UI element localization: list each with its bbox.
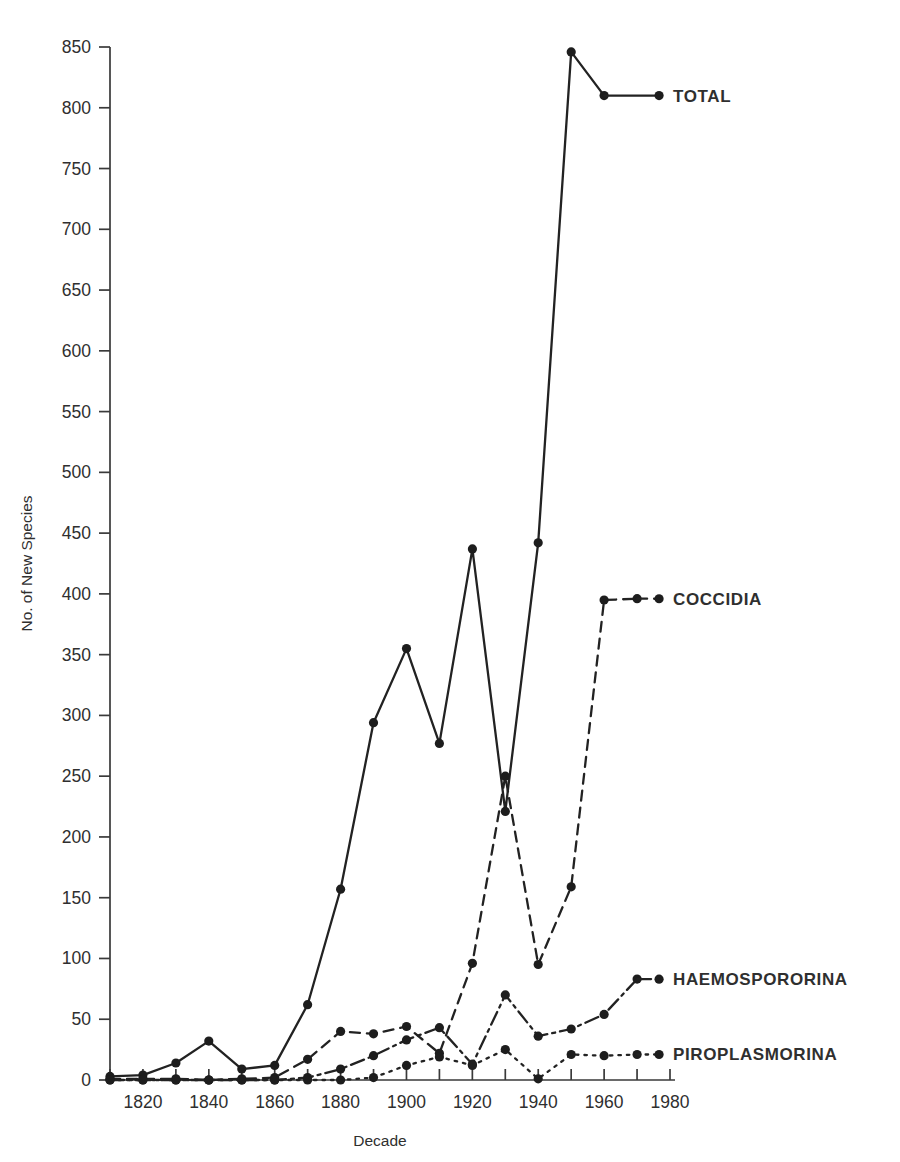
y-tick-label-150: 150 (62, 888, 91, 908)
series-line-coccidia (110, 599, 637, 1080)
data-point-coccidia-1940 (534, 960, 543, 969)
data-point-haemospororina-1960 (600, 1010, 609, 1019)
data-point-piroplasmorina-1920 (468, 1061, 477, 1070)
x-tick-label-1920: 1920 (453, 1092, 492, 1112)
data-point-haemospororina-1910 (435, 1023, 444, 1032)
data-point-piroplasmorina-1840 (204, 1075, 213, 1084)
data-point-total-1900 (402, 644, 411, 653)
data-point-coccidia-1870 (303, 1055, 312, 1064)
y-tick-label-700: 700 (62, 219, 91, 239)
y-tick-label-50: 50 (72, 1009, 92, 1029)
x-tick-label-1900: 1900 (387, 1092, 426, 1112)
data-point-piroplasmorina-1930 (501, 1045, 510, 1054)
data-point-piroplasmorina-1910 (435, 1052, 444, 1061)
data-point-total-1930 (501, 807, 510, 816)
data-point-total-1910 (435, 739, 444, 748)
data-point-total-1940 (534, 538, 543, 547)
data-point-coccidia-1900 (402, 1022, 411, 1031)
data-point-coccidia-1890 (369, 1029, 378, 1038)
chart-figure: , . . , , 050100150200250300350400450500… (0, 0, 900, 1162)
data-point-total-1850 (237, 1065, 246, 1074)
data-point-total-1880 (336, 885, 345, 894)
y-tick-label-450: 450 (62, 523, 91, 543)
y-tick-label-500: 500 (62, 462, 91, 482)
data-point-coccidia-1930 (501, 772, 510, 781)
data-point-coccidia-1920 (468, 959, 477, 968)
x-tick-label-1960: 1960 (585, 1092, 624, 1112)
data-point-total-1950 (567, 47, 576, 56)
y-tick-label-350: 350 (62, 645, 91, 665)
series-label-marker-haemospororina (654, 975, 663, 984)
y-tick-label-100: 100 (62, 948, 91, 968)
x-tick-label-1840: 1840 (189, 1092, 228, 1112)
data-point-piroplasmorina-1890 (369, 1073, 378, 1082)
data-point-piroplasmorina-1900 (402, 1061, 411, 1070)
data-point-piroplasmorina-1810 (105, 1075, 114, 1084)
y-tick-label-800: 800 (62, 98, 91, 118)
y-tick-label-600: 600 (62, 341, 91, 361)
data-point-total-1920 (468, 544, 477, 553)
x-axis-title: Decade (353, 1132, 406, 1149)
data-point-haemospororina-1930 (501, 990, 510, 999)
data-point-haemospororina-1940 (534, 1032, 543, 1041)
series-label-marker-total (654, 91, 663, 100)
axis-lines (110, 47, 675, 1080)
data-point-piroplasmorina-1940 (534, 1074, 543, 1083)
y-tick-label-0: 0 (81, 1070, 91, 1090)
data-point-piroplasmorina-1830 (171, 1075, 180, 1084)
series-label-haemospororina: HAEMOSPORORINA (673, 970, 848, 989)
y-tick-label-300: 300 (62, 705, 91, 725)
x-tick-label-1940: 1940 (519, 1092, 558, 1112)
series-label-total: TOTAL (673, 87, 731, 106)
series-label-coccidia: COCCIDIA (673, 590, 762, 609)
data-point-piroplasmorina-1960 (600, 1051, 609, 1060)
data-point-total-1870 (303, 1000, 312, 1009)
data-point-total-1830 (171, 1058, 180, 1067)
data-point-piroplasmorina-1950 (567, 1050, 576, 1059)
y-tick-label-750: 750 (62, 159, 91, 179)
y-tick-label-550: 550 (62, 402, 91, 422)
data-point-piroplasmorina-1870 (303, 1075, 312, 1084)
data-point-haemospororina-1950 (567, 1024, 576, 1033)
y-tick-label-250: 250 (62, 766, 91, 786)
data-point-total-1840 (204, 1037, 213, 1046)
y-tick-label-850: 850 (62, 37, 91, 57)
data-point-coccidia-1880 (336, 1027, 345, 1036)
data-point-piroplasmorina-1820 (138, 1075, 147, 1084)
y-tick-label-200: 200 (62, 827, 91, 847)
line-chart-svg: 0501001502002503003504004505005506006507… (0, 0, 900, 1162)
y-tick-label-400: 400 (62, 584, 91, 604)
data-point-piroplasmorina-1860 (270, 1075, 279, 1084)
series-label-marker-coccidia (654, 594, 663, 603)
y-axis-title: No. of New Species (18, 495, 35, 631)
data-point-piroplasmorina-1850 (237, 1075, 246, 1084)
data-point-total-1890 (369, 718, 378, 727)
data-point-total-1860 (270, 1061, 279, 1070)
data-point-haemospororina-1890 (369, 1051, 378, 1060)
series-label-marker-piroplasmorina (654, 1050, 663, 1059)
y-tick-label-650: 650 (62, 280, 91, 300)
data-point-haemospororina-1880 (336, 1065, 345, 1074)
series-label-piroplasmorina: PIROPLASMORINA (673, 1045, 837, 1064)
x-tick-label-1880: 1880 (321, 1092, 360, 1112)
x-tick-label-1860: 1860 (255, 1092, 294, 1112)
data-point-haemospororina-1900 (402, 1035, 411, 1044)
x-tick-label-1820: 1820 (123, 1092, 162, 1112)
x-tick-label-1980: 1980 (651, 1092, 690, 1112)
data-point-piroplasmorina-1880 (336, 1075, 345, 1084)
data-point-coccidia-1950 (567, 882, 576, 891)
data-point-coccidia-1960 (600, 595, 609, 604)
